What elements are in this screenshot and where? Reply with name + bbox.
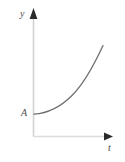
y-axis-label: y (20, 9, 24, 19)
intercept-label-a: A (21, 108, 27, 118)
exponential-curve (34, 46, 103, 115)
t-axis-arrowhead (104, 133, 113, 141)
y-axis-arrowhead (30, 8, 38, 19)
t-axis-label: t (108, 143, 111, 153)
exponential-growth-figure: y t A (0, 0, 125, 162)
plot-canvas (0, 0, 125, 162)
